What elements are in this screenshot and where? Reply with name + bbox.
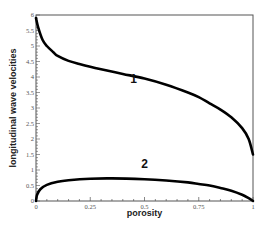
- curve-label-2: 2: [141, 157, 148, 171]
- y-tick-label: 4.5: [26, 58, 34, 65]
- y-tick-label: 3: [31, 104, 34, 111]
- x-axis-label: porosity: [127, 208, 163, 218]
- y-tick-label: 6: [31, 11, 35, 18]
- y-tick-label: 2.5: [26, 120, 34, 127]
- y-tick-label: 3.5: [26, 89, 34, 96]
- x-tick-label: 0: [34, 203, 37, 210]
- chart: 00.250.50.751 00.511.522.533.544.555.56 …: [0, 0, 266, 225]
- y-tick-label: 1.5: [26, 151, 34, 158]
- x-tick-label: 1: [251, 203, 254, 210]
- x-tick-label: 0.25: [85, 203, 96, 210]
- y-tick-label: 4: [31, 73, 35, 80]
- y-tick-label: 0: [31, 197, 34, 204]
- y-tick-label: 1: [31, 166, 34, 173]
- y-tick-label: 5.5: [26, 27, 34, 34]
- y-tick-label: 2: [31, 135, 34, 142]
- y-tick-label: 0.5: [26, 182, 34, 189]
- y-axis-label: longitudinal wave velocities: [8, 48, 18, 167]
- y-tick-label: 5: [31, 42, 34, 49]
- plot-frame: [36, 15, 253, 201]
- x-tick-label: 0.75: [193, 203, 204, 210]
- curve-label-1: 1: [130, 72, 137, 86]
